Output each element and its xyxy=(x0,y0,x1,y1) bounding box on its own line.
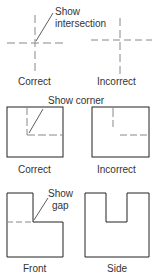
label-front: Front xyxy=(23,263,47,274)
label-correct: Correct xyxy=(18,164,51,175)
correct-corner-figure xyxy=(7,107,63,157)
label-correct: Correct xyxy=(18,76,51,87)
callout-show-corner: Show corner xyxy=(48,95,105,106)
leader-line xyxy=(36,13,53,41)
label-incorrect: Incorrect xyxy=(97,76,136,87)
side-view-figure xyxy=(85,193,149,257)
leader-line xyxy=(34,198,48,220)
hidden-line-conventions-diagram: Show intersection Correct Incorrect Show… xyxy=(0,0,155,278)
side-outline xyxy=(85,193,149,257)
outline-rect xyxy=(7,107,63,157)
panel-intersection: Show intersection Correct Incorrect xyxy=(6,6,152,87)
callout-gap: gap xyxy=(52,200,69,211)
panel-gap: Show gap Front Side xyxy=(7,188,149,274)
leader-line xyxy=(29,109,43,133)
callout-show: Show xyxy=(48,188,74,199)
callout-show: Show xyxy=(55,6,81,17)
panel-corner: Show corner Correct Incorrect xyxy=(7,95,149,175)
outline-rect xyxy=(92,107,149,157)
incorrect-corner-figure xyxy=(92,107,149,157)
label-incorrect: Incorrect xyxy=(97,164,136,175)
label-side: Side xyxy=(107,263,127,274)
callout-intersection: intersection xyxy=(55,18,106,29)
